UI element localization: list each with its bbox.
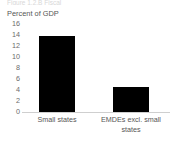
x-axis-tick-label-line: states — [94, 125, 168, 135]
x-axis-tick-labels: Small statesEMDEs excl. smallstates — [22, 115, 172, 143]
bar — [113, 87, 149, 112]
y-axis-unit-label: Percent of GDP — [7, 9, 59, 18]
x-axis-tick-label: EMDEs excl. smallstates — [94, 115, 168, 134]
y-axis-tick-labels: 1614121086420 — [0, 20, 22, 116]
x-axis-tick-label: Small states — [20, 115, 94, 125]
x-axis-tick-label-line: EMDEs excl. small — [94, 115, 168, 125]
y-axis-tick-label: 16 — [12, 20, 20, 27]
y-axis-tick-label: 6 — [16, 75, 20, 82]
y-axis-tick-label: 4 — [16, 86, 20, 93]
bar — [39, 36, 75, 112]
bar-chart-figure: Figure 1.2.B Fiscal Percent of GDP 16141… — [0, 0, 175, 145]
y-axis-tick-label: 2 — [16, 97, 20, 104]
cropped-header-text: Figure 1.2.B Fiscal — [7, 0, 127, 5]
x-axis-tick-label-line: Small states — [20, 115, 94, 125]
y-axis-tick-label: 12 — [12, 42, 20, 49]
y-axis-tick-label: 8 — [16, 64, 20, 71]
y-axis-tick-label: 14 — [12, 31, 20, 38]
bars-layer — [22, 24, 170, 112]
y-axis-tick-label: 10 — [12, 53, 20, 60]
x-axis-baseline — [22, 112, 170, 113]
